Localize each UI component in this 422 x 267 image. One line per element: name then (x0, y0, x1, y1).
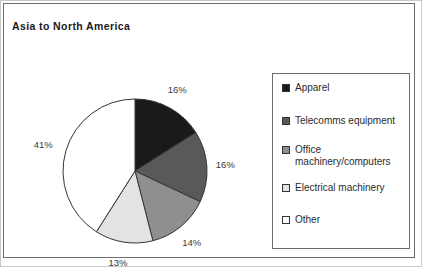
pie-slice-label: 41% (34, 139, 53, 150)
legend-item-label: Apparel (295, 82, 329, 94)
pie-slice-label: 13% (108, 257, 127, 267)
legend-item[interactable]: Other (282, 214, 320, 226)
legend-swatch-icon (282, 84, 290, 92)
legend-swatch-icon (282, 117, 290, 125)
chart-legend: ApparelTelecomms equipmentOffice machine… (272, 73, 410, 249)
legend-swatch-icon (282, 184, 290, 192)
legend-item-label: Telecomms equipment (295, 115, 395, 127)
pie-chart-area: 16%16%14%13%41% (0, 0, 270, 267)
pie-slice-label: 14% (182, 237, 201, 248)
pie-slice-label: 16% (168, 84, 187, 95)
chart-screenshot: Asia to North America 16%16%14%13%41% Ap… (0, 0, 422, 267)
legend-swatch-icon (282, 216, 290, 224)
legend-swatch-icon (282, 146, 290, 154)
legend-item[interactable]: Apparel (282, 82, 329, 94)
pie-slices (63, 99, 207, 243)
legend-item[interactable]: Telecomms equipment (282, 115, 395, 127)
legend-item[interactable]: Electrical machinery (282, 182, 384, 194)
legend-item[interactable]: Office machinery/computers (282, 144, 407, 167)
legend-item-label: Office machinery/computers (295, 144, 407, 167)
pie-chart-svg (0, 0, 270, 267)
pie-slice-label: 16% (216, 159, 235, 170)
legend-item-label: Electrical machinery (295, 182, 384, 194)
legend-item-label: Other (295, 214, 320, 226)
